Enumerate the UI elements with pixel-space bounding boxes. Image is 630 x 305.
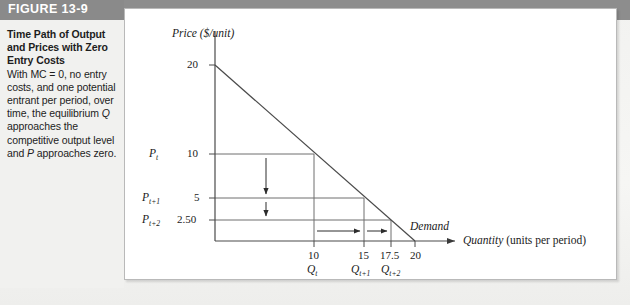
figure-caption-title: Time Path of Output and Prices with Zero… — [7, 28, 119, 68]
x-axis-title: Quantity (units per period) — [463, 234, 586, 246]
x-tick-label-15: 15 — [358, 249, 369, 261]
caption-text-3: approaches zero. — [34, 147, 116, 159]
y-tick-label-2-50: 2.50 — [177, 213, 196, 225]
quantity-label-t1-sub: t+1 — [359, 269, 370, 278]
quantity-label-t2: Qt+2 — [381, 263, 400, 278]
price-label-t1-base: P — [142, 191, 149, 203]
x-tick-label-20: 20 — [410, 249, 421, 261]
y-tick-label-10: 10 — [187, 147, 198, 159]
price-guide-lines — [215, 154, 391, 220]
x-axis-title-units: (units per period) — [503, 234, 586, 246]
figure-page: FIGURE 13-9 Time Path of Output and Pric… — [0, 0, 630, 305]
figure-number-label: FIGURE 13-9 — [8, 2, 88, 16]
price-label-t-base: P — [149, 147, 156, 159]
demand-curve — [215, 65, 415, 241]
price-label-t2-base: P — [142, 213, 149, 225]
price-label-t-sub: t — [156, 153, 158, 162]
figure-caption-body: With MC = 0, no entry costs, and one pot… — [7, 68, 119, 160]
x-tick-label-10: 10 — [308, 249, 319, 261]
price-label-t: Pt — [149, 147, 158, 162]
x-tick-marks — [314, 241, 415, 247]
chart-panel: Price ($/unit) 20 10 5 2.50 Pt Pt+1 Pt+2… — [124, 8, 617, 280]
y-tick-label-20: 20 — [187, 58, 198, 70]
quantity-label-t-sub: t — [315, 269, 317, 278]
figure-caption: Time Path of Output and Prices with Zero… — [7, 28, 119, 160]
x-tick-label-17-5: 17.5 — [380, 249, 399, 261]
demand-curve-label: Demand — [410, 220, 449, 232]
y-tick-label-5: 5 — [194, 191, 200, 203]
x-axis-title-italic: Quantity — [463, 234, 503, 246]
quantity-label-t1: Qt+1 — [351, 263, 370, 278]
price-label-t2-sub: t+2 — [149, 219, 160, 228]
y-tick-marks — [209, 65, 215, 220]
quantity-label-t2-sub: t+2 — [389, 269, 400, 278]
chart-plot-area: Price ($/unit) 20 10 5 2.50 Pt Pt+1 Pt+2… — [125, 9, 618, 281]
quantity-label-t: Qt — [307, 263, 317, 278]
price-label-t2: Pt+2 — [142, 213, 160, 228]
price-label-t1-sub: t+1 — [149, 197, 160, 206]
caption-var-q: Q — [102, 107, 110, 119]
caption-var-p: P — [27, 147, 34, 159]
caption-text-1: With MC = 0, no entry costs, and one pot… — [7, 68, 116, 120]
y-axis-title: Price ($/unit) — [172, 27, 234, 39]
price-label-t1: Pt+1 — [142, 191, 160, 206]
